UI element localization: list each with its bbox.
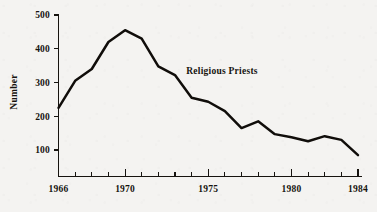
x-axis: 19661970197519801984	[49, 169, 368, 194]
line-chart: 100200300400500 Number 19661970197519801…	[0, 0, 377, 212]
y-axis-ticks	[54, 15, 59, 150]
x-tick-label-1975: 1975	[198, 184, 218, 194]
x-axis-tick-labels: 19661970197519801984	[49, 184, 368, 194]
x-axis-ticks	[59, 169, 359, 177]
y-axis: 100200300400500 Number	[9, 10, 59, 177]
y-tick-label-200: 200	[35, 112, 50, 122]
y-axis-title: Number	[9, 74, 19, 110]
plot-area	[59, 30, 359, 155]
y-axis-tick-labels: 100200300400500	[35, 10, 50, 155]
chart-container: 100200300400500 Number 19661970197519801…	[0, 0, 377, 212]
y-tick-label-400: 400	[35, 44, 50, 54]
x-tick-label-1984: 1984	[348, 184, 368, 194]
series-annotation-label: Religious Priests	[186, 66, 258, 76]
y-tick-label-300: 300	[35, 78, 50, 88]
x-tick-label-1970: 1970	[115, 184, 135, 194]
x-tick-label-1980: 1980	[282, 184, 302, 194]
y-tick-label-100: 100	[35, 145, 50, 155]
series-line-religious-priests	[59, 30, 359, 155]
y-tick-label-500: 500	[35, 10, 50, 20]
x-tick-label-1966: 1966	[49, 184, 69, 194]
